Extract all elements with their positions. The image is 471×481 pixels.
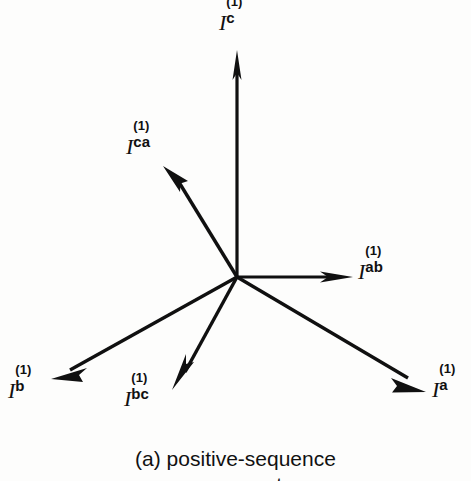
vector-label-ibc-scripts: (1)bc [131,380,149,408]
vector-label-iab-scripts: (1)ab [365,253,383,281]
figure-caption-line-1: (a) positive-sequence [0,446,471,472]
vector-label-ib-scripts: (1)b [15,372,31,400]
vector-label-ic-superscript: (1) [226,0,242,8]
vector-label-ib: I(1)b [8,372,31,402]
vector-label-ic-scripts: (1)c [226,4,242,32]
vector-ica [163,166,237,277]
vector-label-ica-subscript: ca [133,134,150,149]
vector-label-iab-subscript: ab [365,259,383,274]
vector-label-ib-superscript: (1) [15,363,31,376]
vector-label-ica-symbol: I [126,134,133,159]
vector-label-ia-scripts: (1)a [439,371,455,399]
vector-label-ib-symbol: I [8,378,15,403]
vector-label-ibc-superscript: (1) [131,371,149,384]
vector-label-iab: I(1)ab [358,253,383,283]
vector-label-iab-symbol: I [358,259,365,284]
vector-label-ia: I(1)a [432,371,455,401]
phasor-diagram [0,0,471,481]
vector-label-ib-subscript: b [15,378,31,393]
vector-label-ibc-symbol: I [124,386,131,411]
vector-label-ic: I(1)c [219,4,242,34]
vector-label-iab-superscript: (1) [365,244,383,257]
vector-label-ibc: I(1)bc [124,380,149,410]
vector-label-ica-scripts: (1)ca [133,128,150,156]
vector-ic [233,50,242,277]
figure-panel: I(1)c I(1)ca I(1)ab I(1)a I(1)b I(1)bc (… [0,0,471,481]
vector-label-ica-superscript: (1) [133,119,150,132]
vector-label-ic-subscript: c [226,10,242,25]
vector-label-ia-superscript: (1) [439,362,455,375]
vector-label-ica: I(1)ca [126,128,150,158]
vector-iab [237,272,353,283]
figure-caption: (a) positive-sequence components [0,446,471,481]
vector-label-ia-subscript: a [439,377,455,392]
vector-label-ibc-subscript: bc [131,386,149,401]
vector-ia [237,277,426,393]
figure-caption-line-2: components [0,472,471,481]
vector-label-ia-symbol: I [432,377,439,402]
vector-label-ic-symbol: I [219,10,226,35]
phasor-vectors [51,50,426,393]
